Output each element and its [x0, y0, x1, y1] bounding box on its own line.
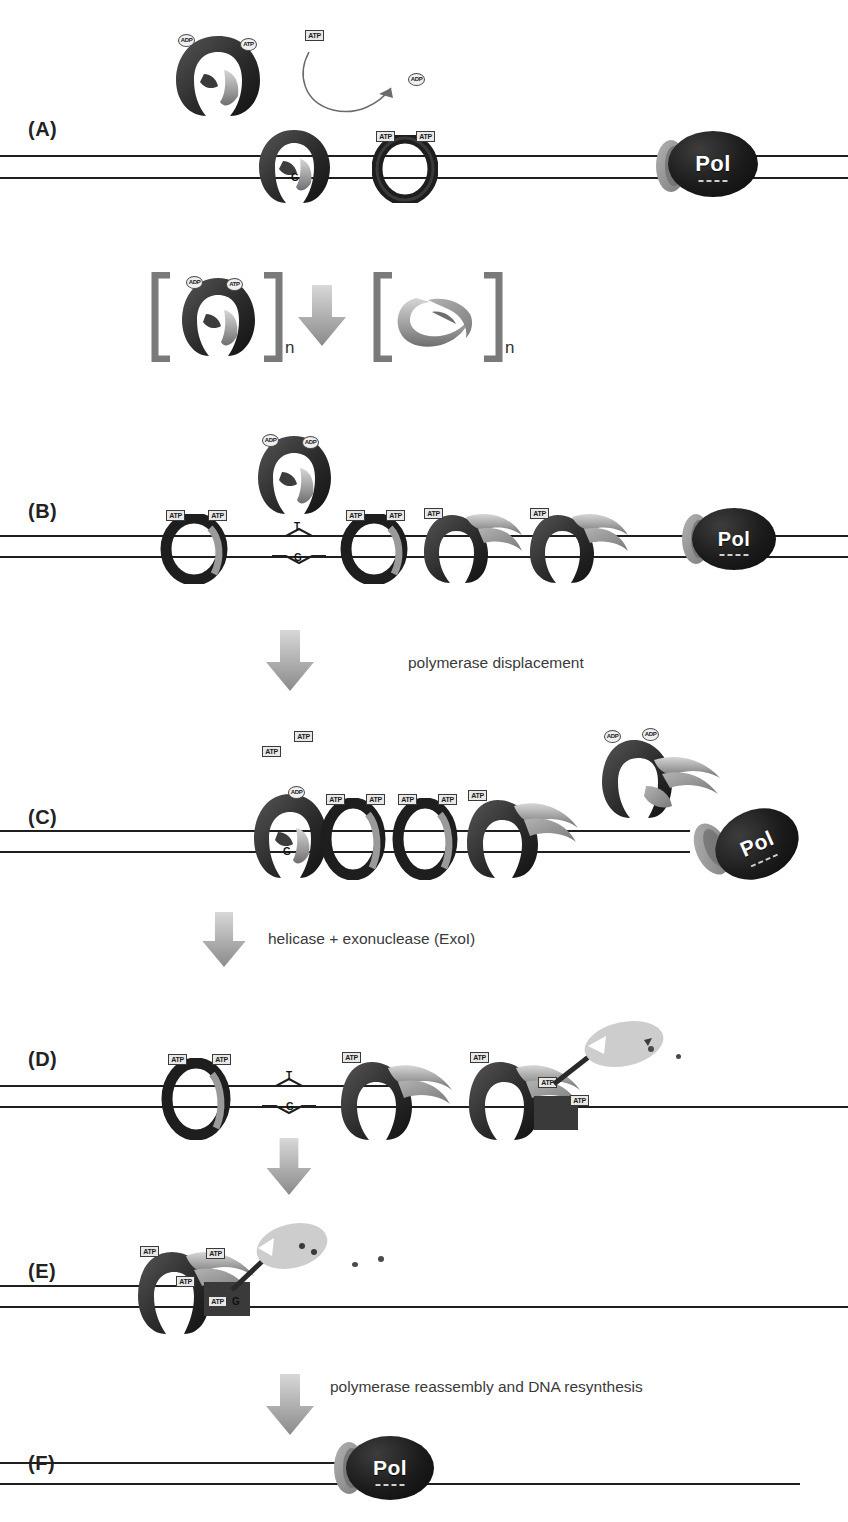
adp-tag: ADP: [178, 34, 195, 47]
sliding-clamp-ring-c2: [392, 798, 458, 880]
adp-tag: ADP: [262, 434, 279, 447]
panel-label-b: (B): [28, 500, 57, 523]
polymerase-f: Pol: [346, 1436, 434, 1500]
subscript-n-right: n: [505, 338, 514, 358]
bracket-left-open-2: [372, 272, 394, 362]
atp-tag: ATP: [398, 794, 417, 805]
dna-fragment: [378, 1256, 384, 1262]
atp-tag: ATP: [424, 508, 443, 519]
atp-tag: ATP: [208, 1296, 227, 1307]
panel-label-d: (D): [28, 1048, 57, 1071]
mismatch-base-top-d: T: [286, 1070, 292, 1081]
atp-tag: ATP: [166, 510, 185, 521]
atp-tag: ATP: [206, 1248, 225, 1259]
exonuclease-complex-e: [228, 1220, 368, 1300]
atp-tag: ATP: [470, 1052, 489, 1063]
atp-tag: ATP: [570, 1095, 589, 1106]
atp-tag: ATP: [468, 790, 487, 801]
sliding-clamp-ring-a: [372, 135, 438, 203]
block-arrow-equation: [296, 285, 348, 347]
atp-tag: ATP: [226, 278, 243, 291]
bracket-right-close-2: [482, 272, 504, 362]
transition-label-1: polymerase displacement: [408, 654, 584, 672]
atp-tag: ATP: [366, 794, 385, 805]
atp-tag: ATP: [342, 1052, 361, 1063]
clamp-loader-dissociated-c: [598, 730, 728, 830]
panel-label-a: (A): [28, 118, 57, 141]
atp-tag-floating: ATP: [294, 731, 313, 742]
atp-tag: ATP: [140, 1246, 159, 1257]
adp-tag: ADP: [302, 436, 319, 449]
block-arrow-transition-d-to-e: [264, 1138, 314, 1196]
mismatch-base-a: G: [291, 172, 299, 183]
atp-tag: ATP: [212, 1054, 231, 1065]
mismatch-base-bottom-d: G: [286, 1101, 294, 1112]
clamp-loader-bound-a: [253, 127, 335, 207]
polymerase-label: Pol: [718, 528, 751, 551]
panel-label-c: (C): [28, 806, 57, 829]
bracket-left-open: [150, 272, 172, 362]
atp-tag-incoming: ATP: [305, 30, 324, 41]
sliding-clamp-ring-c1: [320, 798, 386, 880]
sliding-clamp-ring-d1: [160, 1058, 232, 1140]
dna-fragment: [648, 1046, 654, 1052]
sliding-clamp-ring-b2: [340, 514, 408, 584]
transition-label-3: polymerase reassembly and DNA resynthesi…: [330, 1378, 643, 1396]
transition-label-2: helicase + exonuclease (ExoI): [268, 930, 475, 948]
adp-tag: ADP: [604, 730, 621, 743]
dna-strand-bottom-e: [0, 1306, 848, 1308]
atp-tag: ATP: [376, 131, 395, 142]
block-arrow-transition-2: [200, 912, 248, 968]
subscript-n-left: n: [285, 338, 294, 358]
polymerase-label: Pol: [373, 1456, 407, 1480]
sliding-clamp-ring-b1: [160, 514, 228, 584]
sliding-clamp-equation-right: [392, 290, 480, 352]
atp-tag: ATP: [208, 510, 227, 521]
dna-fragment: [676, 1054, 681, 1059]
adp-tag: ADP: [642, 728, 659, 741]
mismatch-base-top-b: T: [294, 521, 300, 532]
bracket-right-close: [262, 272, 284, 362]
atp-tag: ATP: [168, 1054, 187, 1065]
polymerase-a: Pol: [668, 131, 758, 197]
adp-tag: ADP: [288, 786, 305, 799]
pol-dash-marks: [699, 180, 728, 182]
adp-tag-released: ADP: [408, 73, 425, 86]
atp-tag: ATP: [416, 131, 435, 142]
block-arrow-transition-3: [264, 1374, 316, 1436]
atp-tag: ATP: [346, 510, 365, 521]
mismatch-base-c: G: [283, 846, 291, 857]
atp-tag: ATP: [240, 38, 257, 51]
dna-fragment: [352, 1262, 358, 1267]
atp-tag: ATP: [530, 508, 549, 519]
polymerase-label: Pol: [695, 151, 731, 177]
figure-canvas: (A) ADP ATP ATP ADP: [0, 0, 848, 1522]
exonuclease-complex-d: [548, 1012, 688, 1092]
panel-label-e: (E): [28, 1260, 56, 1283]
atp-tag: ATP: [386, 510, 405, 521]
adp-tag: ADP: [186, 276, 203, 289]
atp-tag: ATP: [326, 794, 345, 805]
atp-tag: ATP: [438, 794, 457, 805]
atp-tag: ATP: [176, 1276, 195, 1287]
mismatch-base-bottom-b: G: [294, 552, 302, 563]
pol-dash-marks: [376, 1484, 405, 1486]
pol-dash-marks: [720, 554, 749, 556]
atp-tag-floating: ATP: [262, 746, 281, 757]
block-arrow-transition-1: [264, 630, 316, 692]
polymerase-b: Pol: [692, 508, 776, 570]
